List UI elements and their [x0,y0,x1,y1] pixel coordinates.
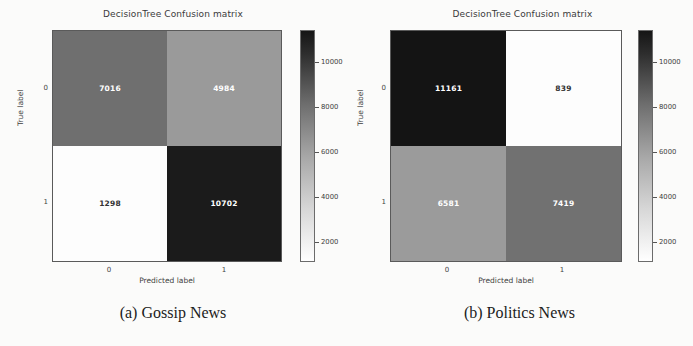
colorbar-tick-10000: 10000 [315,58,343,66]
colorbar-tick-4000: 4000 [653,193,676,201]
confusion-matrix-figure-row: DecisionTree Confusion matrix 7016 4984 … [0,0,693,300]
matrix-cell-1-0: 1298 [53,146,167,261]
colorbar-tick-2000: 2000 [315,238,338,246]
matrix-cell-1-1: 7419 [506,146,621,261]
colorbar-tick-8000: 8000 [315,103,338,111]
x-axis-label: Predicted label [52,276,282,285]
matrix-cell-0-0: 7016 [53,31,167,146]
colorbar-right: 2000 4000 6000 8000 10000 [638,30,684,262]
cell-value: 7419 [553,199,575,208]
colorbar-tick-labels: 2000 4000 6000 8000 10000 [653,30,685,262]
cell-value: 839 [555,84,571,93]
y-tick-label-0: 0 [376,84,386,92]
y-tick-label-1: 1 [38,198,48,206]
x-tick-label-0: 0 [103,266,115,274]
colorbar-tick-8000: 8000 [653,103,676,111]
x-axis-label: Predicted label [390,276,622,285]
colorbar-tick-2000: 2000 [653,238,676,246]
matrix-cell-0-1: 839 [506,31,621,146]
colorbar-gradient [638,30,653,262]
colorbar-tick-6000: 6000 [653,148,676,156]
confusion-matrix-left: 7016 4984 1298 10702 [52,30,282,262]
cell-value: 11161 [435,84,462,93]
matrix-cell-0-1: 4984 [167,31,281,146]
chart-title-left: DecisionTree Confusion matrix [0,9,346,19]
cell-value: 1298 [99,199,121,208]
caption-gossip-news: (a) Gossip News [0,300,346,346]
chart-title-right: DecisionTree Confusion matrix [346,9,693,19]
colorbar-tick-4000: 4000 [315,193,338,201]
cell-value: 4984 [213,84,235,93]
y-tick-label-1: 1 [376,198,386,206]
confusion-matrix-right: 11161 839 6581 7419 [390,30,622,262]
x-tick-label-0: 0 [441,266,453,274]
figure-page: DecisionTree Confusion matrix 7016 4984 … [0,0,693,346]
x-tick-label-1: 1 [218,266,230,274]
colorbar-tick-labels: 2000 4000 6000 8000 10000 [315,30,347,262]
caption-politics-news: (b) Politics News [346,300,693,346]
y-axis-label: True label [16,90,25,126]
colorbar-tick-10000: 10000 [653,58,681,66]
y-tick-label-0: 0 [38,84,48,92]
matrix-cell-1-1: 10702 [167,146,281,261]
matrix-cell-1-0: 6581 [391,146,506,261]
colorbar-gradient [300,30,315,262]
colorbar-tick-6000: 6000 [315,148,338,156]
cell-value: 6581 [438,199,460,208]
x-tick-label-1: 1 [556,266,568,274]
colorbar-left: 2000 4000 6000 8000 10000 [300,30,346,262]
y-axis-label: True label [356,90,365,126]
cell-value: 7016 [99,84,121,93]
panel-politics-news: DecisionTree Confusion matrix 11161 839 … [346,0,693,300]
matrix-cell-0-0: 11161 [391,31,506,146]
figure-captions: (a) Gossip News (b) Politics News [0,300,693,346]
panel-gossip-news: DecisionTree Confusion matrix 7016 4984 … [0,0,346,300]
cell-value: 10702 [210,199,237,208]
